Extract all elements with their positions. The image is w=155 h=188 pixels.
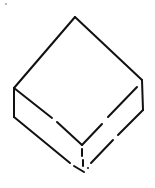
top-face-right-edge [75,17,142,80]
top-face-front-left-edge [14,88,82,145]
box-drawing [0,0,155,188]
bottom-left-edge [14,117,84,172]
front-vertical-edge [82,149,83,166]
top-face-left-edge [14,17,75,88]
speck-mark [5,3,7,5]
right-vertical-edge [142,80,143,110]
top-face-front-right-edge [82,87,137,145]
bottom-vertex-dot [87,167,89,169]
bottom-right-edge [91,110,143,163]
